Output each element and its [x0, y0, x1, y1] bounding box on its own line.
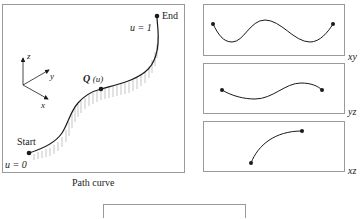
start-point	[27, 151, 32, 156]
xz-projection-curve	[251, 131, 302, 163]
q-u-label: Q (u)	[83, 74, 103, 84]
xy-start-point	[211, 22, 215, 26]
yz-projection-curve	[222, 83, 322, 99]
path-curve	[29, 16, 158, 153]
xy-projection-panel	[204, 5, 345, 56]
u-param-label: (u)	[93, 74, 104, 84]
z-axis-label: z	[27, 51, 31, 61]
y-axis-label: y	[50, 71, 54, 81]
q-point	[99, 87, 104, 92]
u-start-label: u = 0	[5, 160, 27, 170]
yz-label: yz	[348, 107, 356, 117]
x-axis-label: x	[41, 100, 45, 110]
curve-shadow-hatching	[34, 36, 158, 160]
diagram-canvas	[0, 0, 361, 218]
xy-label: xy	[348, 52, 357, 62]
axes-icon	[23, 58, 49, 99]
xz-end-point	[300, 129, 304, 133]
yz-projection-panel	[204, 64, 345, 114]
xz-label: xz	[348, 166, 356, 176]
path-curve-caption: Path curve	[72, 178, 115, 188]
bottom-panel	[104, 205, 246, 219]
xy-end-point	[331, 22, 335, 26]
q-label: Q	[83, 73, 90, 84]
xz-projection-panel	[204, 122, 345, 172]
end-label: End	[162, 11, 178, 21]
yz-start-point	[220, 88, 224, 92]
xz-start-point	[249, 161, 253, 165]
xy-projection-curve	[213, 20, 333, 42]
u-end-label: u = 1	[130, 23, 152, 33]
yz-end-point	[320, 88, 324, 92]
start-label: Start	[17, 137, 36, 147]
end-point	[155, 14, 160, 19]
